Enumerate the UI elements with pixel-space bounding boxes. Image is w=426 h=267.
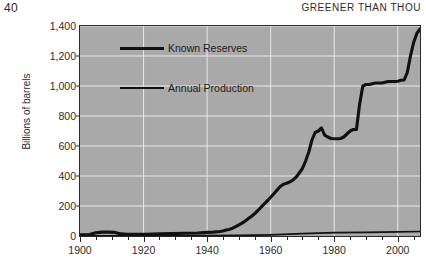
x-axis-minor-tick-mark [223, 237, 224, 240]
x-axis-minor-tick-mark [414, 237, 415, 240]
series-canvas [80, 26, 420, 236]
y-axis-tick-label: 0 [32, 230, 76, 242]
x-axis-ticks: 190019201940196019802000 [79, 237, 421, 265]
x-axis-minor-tick-mark [191, 237, 192, 240]
x-axis-minor-tick-mark [239, 237, 240, 240]
running-head: GREENER THAN THOU [301, 2, 421, 13]
y-axis-tick-label: 800 [32, 110, 76, 122]
y-axis-ticks: 02004006008001,0001,2001,400 [30, 25, 76, 237]
x-axis-minor-tick-mark [128, 237, 129, 240]
x-axis-tick-label: 2000 [386, 244, 409, 256]
x-axis-tick-label: 1900 [68, 244, 91, 256]
x-axis-minor-tick-mark [112, 237, 113, 240]
x-axis-minor-tick-mark [287, 237, 288, 240]
plot-area: Known Reserves Annual Production [79, 25, 421, 237]
x-axis-major-tick-mark [144, 237, 145, 242]
y-axis-tick-label: 1,200 [32, 50, 76, 62]
x-axis-minor-tick-mark [255, 237, 256, 240]
x-axis-tick-label: 1920 [132, 244, 155, 256]
x-axis-minor-tick-mark [366, 237, 367, 240]
chart-figure: Billions of barrels 02004006008001,0001,… [0, 18, 426, 267]
x-axis-tick-label: 1960 [259, 244, 282, 256]
x-axis-major-tick-mark [398, 237, 399, 242]
x-axis-major-tick-mark [334, 237, 335, 242]
x-axis-tick-label: 1940 [195, 244, 218, 256]
y-axis-tick-label: 400 [32, 170, 76, 182]
x-axis-minor-tick-mark [382, 237, 383, 240]
y-axis-tick-label: 200 [32, 200, 76, 212]
x-axis-minor-tick-mark [175, 237, 176, 240]
x-axis-major-tick-mark [207, 237, 208, 242]
x-axis-minor-tick-mark [159, 237, 160, 240]
x-axis-minor-tick-mark [96, 237, 97, 240]
y-axis-tick-label: 1,000 [32, 80, 76, 92]
x-axis-minor-tick-mark [318, 237, 319, 240]
x-axis-major-tick-mark [80, 237, 81, 242]
page-folio: 40 [4, 1, 18, 15]
y-axis-tick-label: 600 [32, 140, 76, 152]
y-axis-tick-label: 1,400 [32, 20, 76, 32]
x-axis-major-tick-mark [271, 237, 272, 242]
page-root: 40 GREENER THAN THOU Billions of barrels… [0, 0, 426, 267]
x-axis-tick-label: 1980 [323, 244, 346, 256]
x-axis-minor-tick-mark [302, 237, 303, 240]
x-axis-minor-tick-mark [350, 237, 351, 240]
